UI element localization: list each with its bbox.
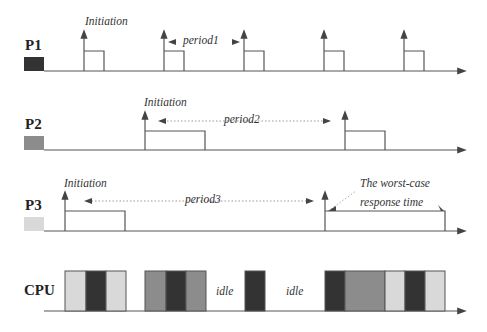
p1-swatch: [24, 57, 44, 71]
cpu-idle-label-1: idle: [216, 285, 233, 297]
p3-swatch: [24, 217, 44, 231]
period1-arrow-left: [168, 39, 176, 45]
period3-arrow-left: [84, 198, 92, 204]
period1-arrow-right: [232, 39, 240, 45]
row-label-p1: P1: [25, 37, 42, 54]
period2-arrow-right: [323, 118, 331, 124]
p1-initiation-label: Initiation: [85, 15, 128, 27]
worst-case-arrow-right: [438, 205, 444, 211]
p1-period-label: period1: [183, 34, 219, 46]
row-label-p3: P3: [25, 197, 42, 214]
worst-case-label-2: response time: [360, 196, 423, 208]
period3-arrow-right: [306, 198, 314, 204]
row-label-p2: P2: [25, 116, 42, 133]
schedule-diagram: [0, 0, 487, 332]
p2-swatch: [24, 136, 44, 150]
worst-case-pointer: [331, 191, 356, 209]
period2-arrow-left: [158, 118, 166, 124]
p2-jobs: [145, 115, 385, 150]
p3-period-label: period3: [185, 193, 221, 205]
p2-initiation-label: Initiation: [144, 96, 187, 108]
cpu-segments: [65, 271, 445, 311]
p2-period-label: period2: [224, 113, 260, 125]
p1-jobs: [84, 34, 424, 71]
worst-case-label-1: The worst-case: [360, 177, 430, 189]
row-label-cpu: CPU: [24, 282, 55, 299]
cpu-idle-label-2: idle: [286, 285, 303, 297]
p3-initiation-label: Initiation: [64, 177, 107, 189]
